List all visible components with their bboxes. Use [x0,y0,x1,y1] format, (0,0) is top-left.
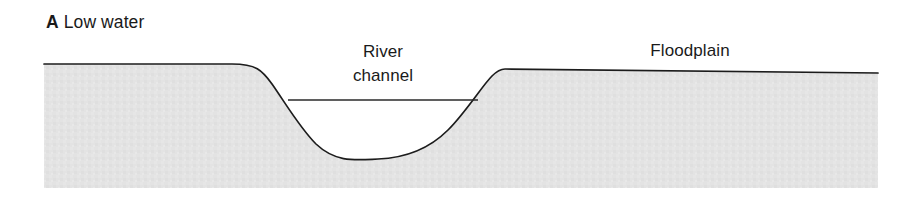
ground-fill [44,64,878,188]
panel-letter: A [46,12,59,32]
floodplain-label: Floodplain [650,39,729,62]
river-cross-section-figure: A Low water River channel Floodplain [0,0,910,210]
river-channel-label-line1: River [353,40,413,64]
panel-caption: Low water [59,12,145,32]
river-channel-label: River channel [353,40,413,88]
river-channel-label-line2: channel [353,64,413,88]
panel-label: A Low water [46,11,144,35]
